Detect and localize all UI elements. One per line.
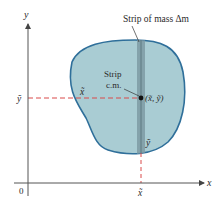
y-axis-label: y [23, 9, 29, 20]
strip-cm-label-line1: Strip [104, 69, 122, 79]
x-tilde-axis-label: x̃ [137, 188, 143, 198]
strip-mass-label: Strip of mass Δm [123, 14, 190, 24]
y-tilde-axis-label: ỹ [16, 94, 22, 104]
strip-cm-label-line2: c.m. [106, 80, 122, 90]
plate-region [70, 40, 184, 154]
origin-label: 0 [19, 186, 24, 196]
center-of-mass-point [139, 96, 144, 101]
x-axis-label: x [206, 177, 212, 188]
diagram-canvas: y x 0 Strip of mass Δm Strip c.m. x̃ ỹ (… [0, 0, 222, 206]
x-tilde-dash-label: x̃ [79, 87, 85, 97]
point-coords-label: (x̃, ỹ) [145, 93, 163, 103]
y-tilde-strip-label: ỹ [145, 138, 151, 148]
